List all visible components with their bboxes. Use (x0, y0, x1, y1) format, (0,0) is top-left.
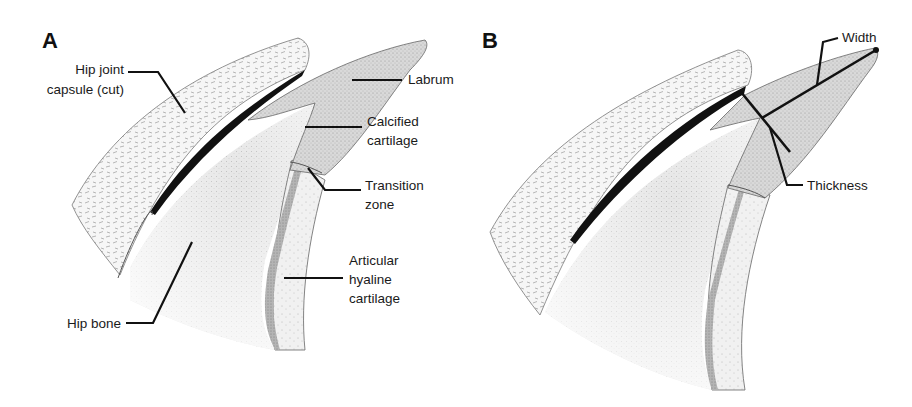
label-calcified-cartilage-2: cartilage (367, 133, 418, 148)
label-width: Width (842, 30, 877, 45)
panel-a: A Hip joint capsule (cut) Labrum Calcifi… (42, 28, 454, 350)
label-articular-hyaline-cartilage-2: hyaline (349, 272, 392, 287)
label-hip-joint-capsule-1: Hip joint (75, 62, 124, 77)
label-calcified-cartilage-1: Calcified (367, 114, 419, 129)
label-hip-bone: Hip bone (67, 316, 121, 331)
label-thickness: Thickness (807, 178, 868, 193)
label-articular-hyaline-cartilage-3: cartilage (349, 291, 400, 306)
width-endpoint-marker (873, 47, 879, 53)
hip-labrum-diagram: A Hip joint capsule (cut) Labrum Calcifi… (0, 0, 912, 407)
label-labrum: Labrum (408, 72, 454, 87)
panel-letter-b: B (482, 28, 498, 53)
panel-b: B Width Thickness (482, 28, 879, 390)
label-transition-zone-1: Transition (365, 178, 424, 193)
panel-letter-a: A (42, 28, 58, 53)
label-hip-joint-capsule-2: capsule (cut) (47, 82, 124, 97)
label-transition-zone-2: zone (365, 197, 394, 212)
label-articular-hyaline-cartilage-1: Articular (349, 253, 399, 268)
